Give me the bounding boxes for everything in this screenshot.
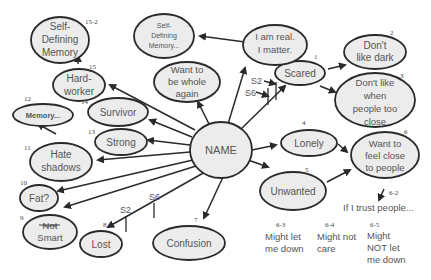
svg-text:8: 8 [103,221,107,229]
free-text-might-not-let-down: 6-5 Might NOT let me down [367,221,406,265]
svg-text:Self-: Self- [157,22,172,29]
node-self-defining-memory[interactable]: Self- Defining Memory 15-2 [31,17,98,63]
svg-text:feel close: feel close [365,150,405,161]
node-unwanted[interactable]: Unwanted 5 [260,166,326,210]
svg-text:be whole: be whole [168,76,206,87]
svg-text:Hard-: Hard- [66,73,91,84]
svg-text:2: 2 [390,29,394,37]
svg-text:when: when [363,90,387,101]
svg-text:Want to: Want to [369,138,401,149]
svg-text:Fat?: Fat? [29,193,49,204]
free-text-if-i-trust: 6-2 If I trust people... [343,189,414,213]
svg-text:15: 15 [89,63,97,71]
svg-text:worker: worker [63,86,95,97]
svg-text:Hate: Hate [50,149,72,160]
node-want-close[interactable]: Want to feel close to people 6 [351,128,419,178]
svg-text:Strong: Strong [106,137,135,148]
svg-text:Might not: Might not [317,231,356,242]
svg-text:Unwanted: Unwanted [270,186,315,197]
node-memory[interactable]: Memory... 12 [13,95,73,126]
svg-text:care: care [317,243,335,254]
svg-text:If I trust people...: If I trust people... [343,202,414,213]
svg-text:Don't: Don't [363,40,386,51]
node-want-whole[interactable]: Want to be whole again [154,62,220,102]
node-not-smart[interactable]: Not Smart 9 [20,214,77,249]
free-text-might-not-care: 6-4 Might not care [317,221,356,254]
svg-text:7: 7 [194,216,198,224]
svg-text:1: 1 [314,53,318,61]
node-lost[interactable]: Lost 8 [80,221,122,257]
svg-text:12: 12 [24,95,32,103]
svg-text:I matter.: I matter. [258,44,292,55]
svg-text:13: 13 [88,128,96,136]
svg-text:me down: me down [367,254,406,265]
node-lonely[interactable]: Lonely 4 [281,119,337,156]
node-name-center[interactable]: NAME [190,122,252,178]
node-hate-shadows[interactable]: Hate shadows 11 [24,143,92,181]
svg-text:I am real.: I am real. [255,31,295,42]
svg-text:6-5: 6-5 [370,221,380,229]
svg-text:10: 10 [20,179,28,187]
svg-text:6-4: 6-4 [325,221,335,229]
node-dont-like-dark[interactable]: Don't like dark 2 [344,29,406,69]
svg-text:Scared: Scared [284,68,316,79]
node-hard-worker[interactable]: Hard- worker 15 [53,63,105,101]
svg-text:people too: people too [353,103,397,114]
svg-text:Memory...: Memory... [26,111,60,120]
svg-text:like dark: like dark [356,52,394,63]
node-survivor[interactable]: Survivor 14 [81,98,148,126]
svg-text:to people: to people [365,162,404,173]
svg-text:6: 6 [404,128,408,136]
svg-text:shadows: shadows [41,162,80,173]
svg-text:Lost: Lost [92,239,111,250]
svg-text:4: 4 [302,119,306,127]
mind-map: S2 S6 S2 S6 NAME Scared 1 Don't like dar… [0,0,431,280]
svg-text:3: 3 [400,72,404,80]
svg-text:6-2: 6-2 [389,189,399,197]
svg-text:Memory...: Memory... [149,42,180,50]
node-fat[interactable]: Fat? 10 [20,179,58,211]
free-text-might-let-down: 6-3 Might let me down [265,221,304,254]
svg-text:Want to: Want to [171,64,203,75]
svg-text:11: 11 [24,144,31,152]
node-strong[interactable]: Strong 13 [88,128,147,155]
svg-text:close: close [364,116,386,127]
svg-text:Lonely: Lonely [294,138,323,149]
svg-text:6-3: 6-3 [276,221,286,229]
svg-text:Smart: Smart [37,232,63,243]
svg-text:NOT let: NOT let [367,242,400,253]
lost-s6-label: S6 [149,192,160,202]
svg-text:9: 9 [20,214,24,222]
svg-text:Don't like: Don't like [356,77,395,88]
svg-text:5: 5 [305,166,309,174]
lost-s2-label: S2 [120,205,131,215]
svg-text:Might let: Might let [265,231,301,242]
svg-text:NAME: NAME [205,144,237,156]
scared-s2-label: S2 [251,76,262,86]
svg-text:me down: me down [265,243,304,254]
svg-text:Self-: Self- [50,21,71,32]
svg-text:Memory: Memory [42,47,78,58]
node-self-defining-memory-2[interactable]: Self- Defining Memory... [134,14,194,58]
svg-text:15-2: 15-2 [85,18,98,26]
scared-s6-label: S6 [245,88,256,98]
node-confusion[interactable]: Confusion 7 [153,216,225,260]
node-dont-like-close[interactable]: Don't like when people too close 3 [335,72,415,127]
svg-text:Might: Might [367,230,391,241]
svg-text:Confusion: Confusion [166,238,211,249]
svg-text:Defining: Defining [42,34,79,45]
node-i-am-real[interactable]: I am real. I matter. [243,25,307,65]
svg-text:Defining: Defining [151,32,177,40]
svg-text:Survivor: Survivor [100,107,137,118]
svg-text:again: again [175,88,198,99]
